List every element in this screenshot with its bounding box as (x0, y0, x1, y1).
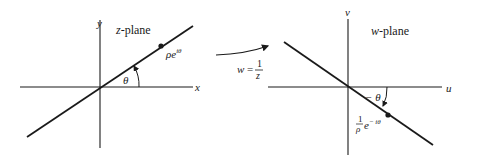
z-point-label: ρeiθ (165, 47, 182, 60)
z-ray-line (27, 26, 193, 137)
mapping: w = 1 z (216, 46, 268, 81)
w-plane-title: w-plane (371, 24, 409, 38)
z-y-axis-label: y (96, 17, 102, 29)
w-point-label-den: ρ (355, 124, 361, 134)
z-plane: y x z-plane ρeiθ θ (20, 17, 200, 148)
z-point (158, 43, 163, 48)
w-plane: v u w-plane − θ 1 ρ e− iθ (268, 6, 452, 155)
w-point-label-num: 1 (358, 114, 363, 124)
mapping-arrow-icon (216, 46, 268, 55)
mapping-numerator: 1 (257, 58, 262, 69)
z-plane-title: z-plane (115, 23, 151, 37)
diagram-canvas: y x z-plane ρeiθ θ w = 1 z v u w-plane −… (0, 0, 477, 162)
w-angle-arc-icon (383, 87, 387, 106)
mapping-denominator: z (255, 70, 260, 81)
z-angle-label: θ (123, 74, 129, 86)
w-point-label: e− iθ (364, 118, 381, 131)
z-x-axis-label: x (194, 81, 200, 93)
w-u-axis-label: u (446, 82, 452, 94)
w-point (385, 112, 390, 117)
z-angle-arc-icon (134, 66, 139, 87)
w-angle-label: − θ (365, 91, 381, 103)
w-v-axis-label: v (345, 6, 350, 18)
mapping-lhs: w = (237, 63, 253, 75)
